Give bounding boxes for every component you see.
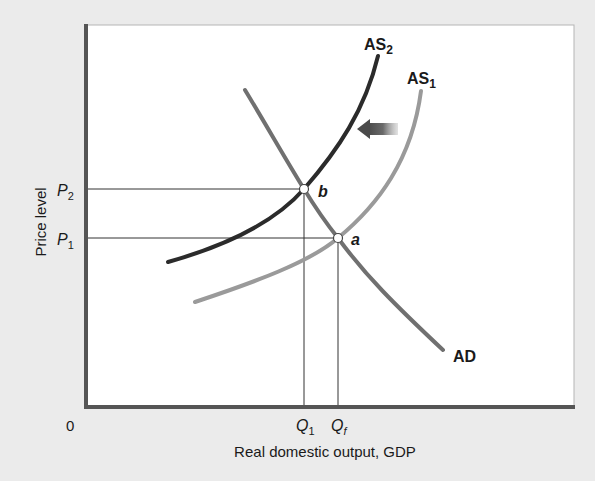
point-b-label: b — [318, 183, 328, 200]
equilibrium-point-b — [300, 185, 309, 194]
x-axis-title: Real domestic output, GDP — [234, 443, 416, 460]
as-ad-diagram: b a AS2 AS1 AD P2 P1 Q1 Qf 0 Real domest… — [0, 0, 595, 481]
q1-label: Q1 — [296, 417, 315, 437]
origin-label: 0 — [66, 417, 74, 434]
qf-label: Qf — [331, 417, 347, 437]
ad-label: AD — [453, 348, 476, 365]
plot-area — [86, 25, 574, 407]
y-axis-title: Price level — [32, 187, 49, 256]
equilibrium-point-a — [334, 234, 343, 243]
p2-label: P2 — [57, 182, 74, 202]
point-a-label: a — [351, 231, 360, 248]
p1-label: P1 — [57, 231, 74, 251]
